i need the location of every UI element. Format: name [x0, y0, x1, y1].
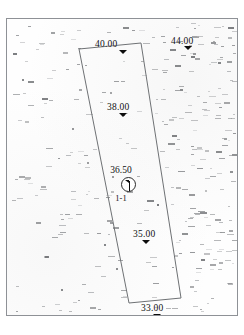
contour-marker-44-00: [184, 46, 192, 50]
contour-label-44-00: 44.00: [171, 36, 193, 46]
map-frame: 40.0044.0038.0035.0033.00 36.50 1-1: [6, 18, 238, 316]
well-flag-icon: [125, 180, 129, 183]
contour-label-35-00: 35.00: [133, 229, 155, 239]
contour-label-40-00: 40.00: [95, 39, 117, 49]
contour-label-38-00: 38.00: [107, 102, 129, 112]
well-id-label: 1-1: [115, 193, 126, 203]
contour-label-33-00: 33.00: [141, 303, 163, 313]
contour-marker-38-00: [119, 113, 127, 117]
contour-marker-40-00: [119, 50, 127, 54]
contour-map: 40.0044.0038.0035.0033.00 36.50 1-1: [0, 0, 244, 335]
contour-marker-33-00: [153, 314, 161, 316]
contour-marker-35-00: [142, 240, 150, 244]
well-depth-label: 36.50: [110, 165, 131, 175]
well-derrick-icon: [121, 177, 136, 192]
